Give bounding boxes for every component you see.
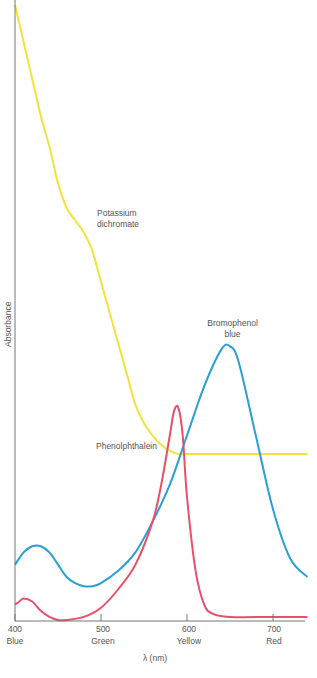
label-line: Bromophenol [200,318,265,329]
x-tick-700: 700 Red [254,623,294,647]
tick-color-name: Blue [0,635,35,647]
phenolphthalein-curve [15,406,307,621]
label-line: Potassium [97,208,139,219]
absorbance-chart [0,0,317,678]
label-line: blue [200,329,265,340]
x-axis-label: λ (nm) [143,653,167,664]
tick-value: 500 [83,623,123,635]
tick-value: 700 [254,623,294,635]
tick-color-name: Yellow [169,635,209,647]
plot-area [15,5,307,620]
label-potassium-dichromate: Potassium dichromate [97,208,139,230]
label-line: dichromate [97,219,139,230]
label-phenolphthalein: Phenolphthalein [96,441,157,452]
tick-value: 400 [0,623,35,635]
x-tick-600: 600 Yellow [169,623,209,647]
bromophenol-blue-curve [15,345,307,587]
x-tick-500: 500 Green [83,623,123,647]
tick-color-name: Red [254,635,294,647]
x-tick-400: 400 Blue [0,623,35,647]
tick-value: 600 [169,623,209,635]
tick-color-name: Green [83,635,123,647]
y-axis-label: Absorbance [3,302,13,347]
label-bromophenol-blue: Bromophenol blue [200,318,265,340]
potassium-dichromate-curve [15,5,307,454]
